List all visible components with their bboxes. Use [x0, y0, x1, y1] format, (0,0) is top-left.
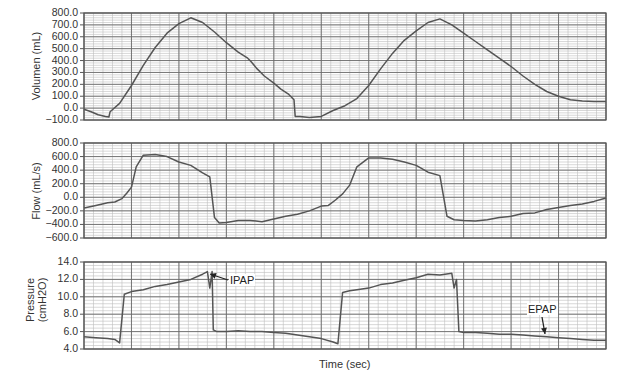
volume-ytick: 700.0: [22, 19, 78, 30]
flow-ytick: 800.0: [22, 137, 78, 148]
pressure-ytick: 14.0: [22, 256, 78, 267]
epap-annotation: EPAP: [527, 303, 558, 315]
volume-panel: [80, 13, 606, 120]
pressure-ytick: 4.0: [22, 343, 78, 354]
ventilator-waveform-chart: Volumen (mL) Flow (mL/s) Pressure (cmH2O…: [0, 0, 623, 381]
flow-ytick: 0.0: [22, 191, 78, 202]
volume-ytick: 100.0: [22, 90, 78, 101]
flow-ytick: 400.0: [22, 164, 78, 175]
flow-ytick: 200.0: [22, 178, 78, 189]
volume-ytick: 0.0: [22, 102, 78, 113]
pressure-ytick: 12.0: [22, 273, 78, 284]
x-axis-label: Time (sec): [319, 358, 371, 370]
volume-ytick: −100.0: [22, 114, 78, 125]
pressure-ytick: 10.0: [22, 291, 78, 302]
ipap-annotation: IPAP: [229, 274, 255, 286]
volume-ytick: 200.0: [22, 78, 78, 89]
volume-ytick: 300.0: [22, 66, 78, 77]
flow-ytick: −400.0: [22, 218, 78, 229]
volume-ytick: 600.0: [22, 31, 78, 42]
pressure-ytick: 6.0: [22, 326, 78, 337]
flow-panel: [80, 143, 606, 238]
volume-ytick: 800.0: [22, 7, 78, 18]
volume-ytick: 500.0: [22, 43, 78, 54]
volume-ytick: 400.0: [22, 55, 78, 66]
flow-ytick: −600.0: [22, 232, 78, 243]
flow-ytick: 600.0: [22, 151, 78, 162]
pressure-ytick: 8.0: [22, 308, 78, 319]
flow-ytick: −200.0: [22, 205, 78, 216]
waveform-plots: [0, 0, 623, 381]
